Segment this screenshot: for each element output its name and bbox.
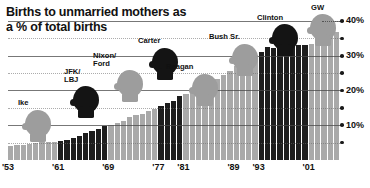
x-axis-label: '53 — [2, 162, 14, 172]
president-label: Bush Sr. — [209, 33, 240, 41]
x-axis-label: '77 — [152, 162, 164, 172]
president-marker: Ike — [23, 110, 53, 140]
tick-dot-icon — [340, 19, 344, 23]
y-axis-label: 30% — [346, 51, 364, 60]
gridline — [8, 143, 340, 144]
president-marker: GW — [308, 14, 338, 44]
tick-dot-icon — [340, 37, 344, 41]
chart-container: Births to unmarried mothers as a % of to… — [0, 0, 370, 188]
silhouette-neck — [315, 34, 331, 46]
gridline — [8, 125, 340, 126]
president-label: JFK/ LBJ — [64, 68, 80, 85]
tick-dot-icon — [340, 106, 344, 110]
x-axis-label: '69 — [102, 162, 114, 172]
president-marker: Clinton — [270, 24, 300, 54]
president-label: Carter — [138, 37, 160, 45]
tick-dot-icon — [340, 54, 344, 58]
x-axis-label: '01 — [303, 162, 315, 172]
president-label: Reagan — [166, 63, 193, 71]
silhouette-nose — [114, 83, 121, 90]
president-marker: Bush Sr. — [230, 44, 260, 74]
president-silhouette-icon — [190, 74, 220, 104]
silhouette-nose — [269, 37, 276, 44]
silhouette-neck — [277, 44, 293, 56]
silhouette-neck — [122, 90, 138, 102]
silhouette-nose — [189, 87, 196, 94]
silhouette-nose — [229, 57, 236, 64]
tick-dot-icon — [340, 141, 344, 145]
president-silhouette-icon — [230, 44, 260, 74]
x-axis: '53'61'69'77'81'89'93'01 — [8, 162, 340, 176]
president-silhouette-icon — [270, 24, 300, 54]
y-axis-label: 40% — [346, 16, 364, 25]
gridline — [8, 90, 340, 91]
silhouette-nose — [307, 27, 314, 34]
silhouette-neck — [78, 106, 94, 118]
tick-dot-icon — [340, 71, 344, 75]
silhouette-neck — [197, 94, 213, 106]
x-axis-label: '61 — [52, 162, 64, 172]
president-silhouette-icon — [71, 86, 101, 116]
silhouette-nose — [149, 61, 156, 68]
silhouette-nose — [70, 99, 77, 106]
president-label: Nixon/ Ford — [93, 52, 116, 69]
tick-dot-icon — [340, 89, 344, 93]
president-marker: Reagan — [190, 74, 220, 104]
x-axis-label: '81 — [177, 162, 189, 172]
president-marker: JFK/ LBJ — [71, 86, 101, 116]
president-label: Clinton — [257, 14, 283, 22]
y-axis: 40%30%20%10% — [340, 14, 370, 160]
silhouette-nose — [22, 123, 29, 130]
x-axis-label: '93 — [252, 162, 264, 172]
gridline — [8, 21, 340, 22]
president-label: GW — [311, 4, 324, 12]
y-axis-label: 20% — [346, 86, 364, 95]
gridline — [8, 108, 340, 109]
president-silhouette-icon — [23, 110, 53, 140]
y-axis-label: 10% — [346, 121, 364, 130]
president-label: Ike — [18, 99, 29, 107]
president-silhouette-icon — [115, 70, 145, 100]
leader-line — [322, 21, 340, 22]
president-marker: Nixon/ Ford — [115, 70, 145, 100]
tick-dot-icon — [340, 123, 344, 127]
plot-area: IkeJFK/ LBJNixon/ FordCarterReaganBush S… — [8, 14, 340, 160]
silhouette-neck — [237, 64, 253, 76]
president-silhouette-icon — [308, 14, 338, 44]
x-axis-label: '89 — [227, 162, 239, 172]
silhouette-neck — [30, 130, 46, 142]
